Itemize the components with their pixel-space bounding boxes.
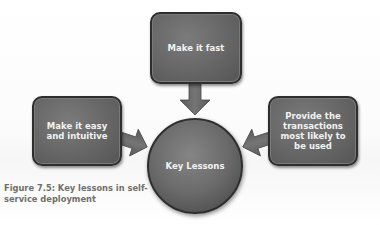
node-make-it-fast: Make it fast (150, 12, 242, 84)
center-node-key-lessons: Key Lessons (147, 118, 243, 214)
diagram-canvas: Make it fast Make it easy and intuitive … (0, 0, 380, 225)
figure-caption: Figure 7.5: Key lessons in self-service … (4, 183, 154, 205)
arrow-down-icon (180, 83, 210, 115)
node-provide-transactions: Provide the transactions most likely to … (268, 96, 358, 166)
node-make-it-easy: Make it easy and intuitive (32, 96, 122, 166)
node-label: Provide the transactions most likely to … (274, 111, 352, 151)
node-label: Make it fast (168, 43, 225, 53)
center-label: Key Lessons (166, 161, 225, 171)
node-label: Make it easy and intuitive (38, 121, 116, 141)
